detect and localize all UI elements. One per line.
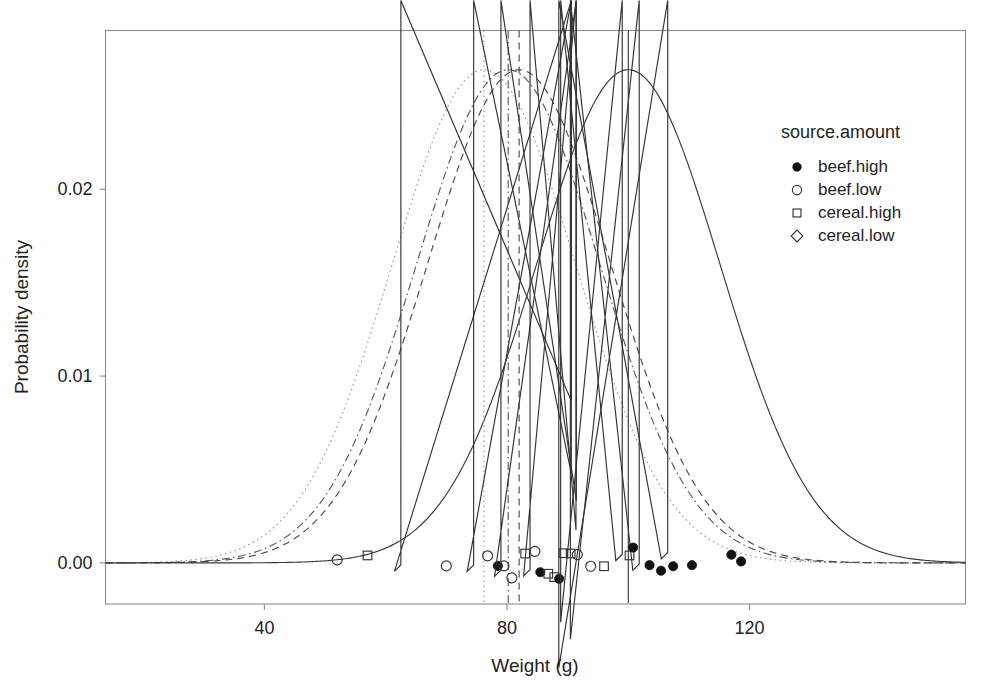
legend-title: source.amount [781, 122, 900, 142]
y-tick-label-0.02: 0.02 [57, 179, 92, 199]
figure-background [0, 0, 994, 699]
marker-filled-circle-beef.high-30 [687, 561, 696, 570]
density-plot-figure: 4080120 0.000.010.02 Weight (g) Probabil… [0, 0, 994, 699]
chart-canvas: 4080120 0.000.010.02 Weight (g) Probabil… [0, 0, 994, 699]
legend-label-beef.low: beef.low [818, 180, 882, 199]
marker-filled-circle-beef.high-27 [656, 566, 665, 575]
legend-label-cereal.low: cereal.low [818, 226, 895, 245]
y-tick-label-0.00: 0.00 [57, 553, 92, 573]
x-tick-label-120: 120 [735, 618, 765, 638]
marker-filled-circle-beef.high-32 [737, 557, 746, 566]
x-axis-label: Weight (g) [491, 655, 578, 676]
marker-filled-circle-beef.high-31 [727, 550, 736, 559]
marker-filled-circle-beef.high-29 [669, 562, 678, 571]
y-tick-label-0.01: 0.01 [57, 366, 92, 386]
x-tick-label-40: 40 [254, 618, 274, 638]
x-tick-label-80: 80 [497, 618, 517, 638]
marker-filled-circle-legend-0 [793, 163, 801, 171]
y-axis-label: Probability density [11, 239, 32, 394]
marker-filled-circle-beef.high-25 [629, 543, 638, 552]
legend-label-cereal.high: cereal.high [818, 203, 901, 222]
marker-filled-circle-beef.high-26 [645, 561, 654, 570]
legend-label-beef.high: beef.high [818, 157, 888, 176]
